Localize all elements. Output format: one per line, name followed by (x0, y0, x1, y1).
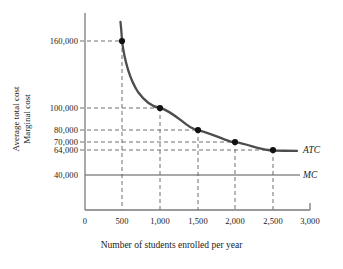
y-tick-label-40000: 40,000 (28, 170, 78, 180)
y-tick-label-160000: 160,000 (28, 36, 78, 46)
x-tick-label-2500: 2,500 (253, 216, 293, 226)
vertical-guide-lines (122, 41, 273, 210)
mc-series-label: MC (303, 170, 317, 180)
x-axis-title: Number of students enrolled per year (0, 240, 343, 250)
data-point-500-160000 (119, 38, 125, 44)
atc-series-label: ATC (303, 145, 320, 155)
y-axis-title: Average total cost Marginal cost (11, 64, 33, 174)
x-tick-label-1000: 1,000 (140, 216, 180, 226)
x-tick-label-3000: 3,000 (290, 216, 330, 226)
data-point-2000-70000 (232, 139, 238, 145)
atc-curve (121, 22, 298, 151)
atc-data-points (119, 38, 276, 153)
chart-figure: 160,000 100,000 80,000 70,000 64,000 40,… (0, 0, 343, 269)
data-point-2500-64000 (270, 147, 276, 153)
x-tick-label-0: 0 (65, 216, 105, 226)
x-tick-label-2000: 2,000 (215, 216, 255, 226)
y-tick-label-80000: 80,000 (28, 125, 78, 135)
y-tick-label-64000: 64,000 (28, 145, 78, 155)
y-axis-title-line1: Average total cost (11, 87, 21, 152)
horizontal-guide-lines (80, 41, 273, 150)
data-point-1500-80000 (195, 127, 201, 133)
y-tick-label-100000: 100,000 (28, 103, 78, 113)
x-tick-label-500: 500 (102, 216, 142, 226)
y-axis-title-line2: Marginal cost (22, 94, 32, 144)
data-point-1000-100000 (157, 105, 163, 111)
x-tick-label-1500: 1,500 (178, 216, 218, 226)
